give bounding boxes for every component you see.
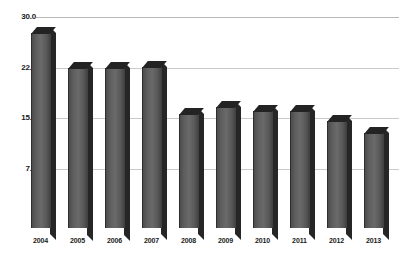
bar-front-face: [142, 67, 162, 228]
bar-front-face: [364, 133, 384, 228]
x-tick-label-2007: 2007: [132, 237, 172, 244]
x-tick-label-2005: 2005: [58, 237, 98, 244]
x-tick-label-2009: 2009: [206, 237, 246, 244]
x-tick-label-2010: 2010: [243, 237, 283, 244]
bar-front-face: [105, 68, 125, 229]
bar-2011[interactable]: [290, 105, 309, 228]
bar-2012[interactable]: [327, 115, 346, 228]
bar-front-face: [253, 111, 273, 228]
x-tick-label-2006: 2006: [95, 237, 135, 244]
bar-front-face: [216, 107, 236, 228]
bar-2006[interactable]: [105, 62, 124, 229]
bar-2007[interactable]: [142, 61, 161, 228]
bar-front-face: [179, 114, 199, 228]
bar-front-face: [68, 68, 88, 229]
plot-area: 07.515.022.530.0 20042005200620072008200…: [0, 0, 407, 259]
bar-2005[interactable]: [68, 62, 87, 229]
bar-2010[interactable]: [253, 105, 272, 228]
y-tick-label: 30.0: [2, 13, 36, 21]
bar-2008[interactable]: [179, 108, 198, 228]
bar-chart: 07.515.022.530.0 20042005200620072008200…: [0, 0, 407, 259]
bar-front-face: [31, 33, 51, 228]
x-tick-label-2011: 2011: [280, 237, 320, 244]
bar-2009[interactable]: [216, 101, 235, 228]
gridline-30-0: [36, 17, 399, 18]
bar-front-face: [290, 111, 310, 228]
bar-front-face: [327, 121, 347, 228]
x-tick-label-2004: 2004: [21, 237, 61, 244]
x-tick-label-2012: 2012: [317, 237, 357, 244]
x-tick-label-2013: 2013: [354, 237, 394, 244]
x-tick-label-2008: 2008: [169, 237, 209, 244]
bar-2004[interactable]: [31, 27, 50, 228]
bar-2013[interactable]: [364, 127, 383, 228]
